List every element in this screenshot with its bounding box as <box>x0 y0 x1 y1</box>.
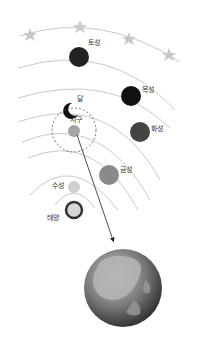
orbit-jupiter <box>18 89 170 128</box>
solar-system-diagram: 토성 목성 달 지구 화성 금성 수성 태양 <box>0 0 198 340</box>
mercury-label: 수성 <box>52 181 64 190</box>
star-icon <box>73 20 87 33</box>
star-icon <box>162 48 176 61</box>
star-arc <box>20 27 180 62</box>
mars-planet <box>130 122 150 142</box>
jupiter-label: 목성 <box>142 85 154 94</box>
venus-label: 금성 <box>120 165 132 174</box>
orbit-saturn <box>18 60 175 110</box>
earth-globe <box>84 249 162 327</box>
mars-label: 화성 <box>151 124 163 133</box>
earth-planet <box>68 125 80 137</box>
venus-planet <box>99 165 119 185</box>
saturn-label: 토성 <box>88 38 100 47</box>
moon-label: 달 <box>77 95 84 103</box>
saturn-planet <box>69 47 89 67</box>
mercury-planet <box>68 181 80 193</box>
earth-label: 지구 <box>70 115 83 124</box>
star-icon <box>23 28 37 41</box>
orbits <box>18 27 180 210</box>
pointer-arrow <box>77 135 113 240</box>
sun-label: 태양 <box>47 214 60 222</box>
sun <box>66 202 82 218</box>
jupiter-planet <box>121 86 141 106</box>
orbit-venus <box>28 151 138 210</box>
star-icon <box>122 32 136 45</box>
